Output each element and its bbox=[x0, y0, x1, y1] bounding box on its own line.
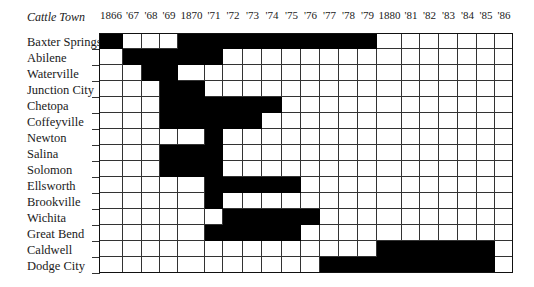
town-label: Waterville bbox=[27, 66, 79, 82]
inactive-year-cell bbox=[339, 113, 358, 129]
inactive-year-cell bbox=[420, 65, 439, 81]
inactive-year-cell bbox=[458, 177, 477, 193]
active-year-cell bbox=[243, 225, 262, 241]
inactive-year-cell bbox=[495, 177, 513, 193]
inactive-year-cell bbox=[160, 177, 178, 193]
inactive-year-cell bbox=[142, 129, 160, 145]
town-label: Coffeyville bbox=[27, 114, 84, 130]
inactive-year-cell bbox=[495, 97, 513, 113]
inactive-year-cell bbox=[262, 257, 282, 273]
inactive-year-cell bbox=[402, 97, 420, 113]
inactive-year-cell bbox=[123, 161, 142, 177]
active-year-cell bbox=[160, 97, 178, 113]
inactive-year-cell bbox=[439, 65, 458, 81]
inactive-year-cell bbox=[439, 145, 458, 161]
active-year-cell bbox=[160, 145, 178, 161]
inactive-year-cell bbox=[282, 129, 301, 145]
inactive-year-cell bbox=[178, 193, 205, 209]
inactive-year-cell bbox=[205, 241, 223, 257]
inactive-year-cell bbox=[377, 81, 402, 97]
inactive-year-cell bbox=[377, 225, 402, 241]
inactive-year-cell bbox=[495, 49, 513, 65]
inactive-year-cell bbox=[339, 129, 358, 145]
inactive-year-cell bbox=[495, 113, 513, 129]
inactive-year-cell bbox=[458, 193, 477, 209]
inactive-year-cell bbox=[205, 257, 223, 273]
active-year-cell bbox=[320, 257, 339, 273]
inactive-year-cell bbox=[420, 225, 439, 241]
inactive-year-cell bbox=[477, 33, 495, 49]
inactive-year-cell bbox=[339, 177, 358, 193]
inactive-year-cell bbox=[495, 257, 513, 273]
inactive-year-cell bbox=[99, 257, 123, 273]
inactive-year-cell bbox=[282, 161, 301, 177]
inactive-year-cell bbox=[439, 177, 458, 193]
active-year-cell bbox=[205, 225, 223, 241]
active-year-cell bbox=[178, 161, 205, 177]
active-year-cell bbox=[420, 257, 439, 273]
inactive-year-cell bbox=[282, 257, 301, 273]
active-year-cell bbox=[160, 65, 178, 81]
inactive-year-cell bbox=[477, 49, 495, 65]
inactive-year-cell bbox=[458, 225, 477, 241]
inactive-year-cell bbox=[223, 193, 243, 209]
inactive-year-cell bbox=[262, 193, 282, 209]
active-year-cell bbox=[439, 257, 458, 273]
active-year-cell bbox=[339, 33, 358, 49]
inactive-year-cell bbox=[439, 113, 458, 129]
inactive-year-cell bbox=[99, 113, 123, 129]
inactive-year-cell bbox=[243, 81, 262, 97]
inactive-year-cell bbox=[243, 241, 262, 257]
inactive-year-cell bbox=[420, 161, 439, 177]
active-year-cell bbox=[301, 209, 320, 225]
inactive-year-cell bbox=[123, 241, 142, 257]
inactive-year-cell bbox=[477, 145, 495, 161]
active-year-cell bbox=[262, 225, 282, 241]
inactive-year-cell bbox=[339, 145, 358, 161]
inactive-year-cell bbox=[402, 161, 420, 177]
inactive-year-cell bbox=[358, 225, 377, 241]
inactive-year-cell bbox=[282, 49, 301, 65]
active-year-cell bbox=[282, 33, 301, 49]
town-label: Dodge City bbox=[27, 258, 85, 274]
inactive-year-cell bbox=[99, 145, 123, 161]
inactive-year-cell bbox=[358, 65, 377, 81]
inactive-year-cell bbox=[477, 97, 495, 113]
active-year-cell bbox=[205, 33, 223, 49]
inactive-year-cell bbox=[402, 209, 420, 225]
town-label: Brookville bbox=[27, 194, 80, 210]
inactive-year-cell bbox=[142, 177, 160, 193]
active-year-cell bbox=[282, 225, 301, 241]
town-label: Chetopa bbox=[27, 98, 69, 114]
inactive-year-cell bbox=[178, 65, 205, 81]
inactive-year-cell bbox=[495, 193, 513, 209]
inactive-year-cell bbox=[377, 49, 402, 65]
inactive-year-cell bbox=[420, 129, 439, 145]
inactive-year-cell bbox=[495, 81, 513, 97]
inactive-year-cell bbox=[402, 33, 420, 49]
active-year-cell bbox=[160, 81, 178, 97]
inactive-year-cell bbox=[339, 241, 358, 257]
inactive-year-cell bbox=[339, 209, 358, 225]
active-year-cell bbox=[477, 257, 495, 273]
inactive-year-cell bbox=[262, 241, 282, 257]
inactive-year-cell bbox=[301, 81, 320, 97]
inactive-year-cell bbox=[223, 129, 243, 145]
inactive-year-cell bbox=[223, 49, 243, 65]
town-label: Great Bend bbox=[27, 226, 84, 242]
inactive-year-cell bbox=[458, 113, 477, 129]
inactive-year-cell bbox=[420, 81, 439, 97]
inactive-year-cell bbox=[99, 81, 123, 97]
active-year-cell bbox=[178, 97, 205, 113]
inactive-year-cell bbox=[495, 129, 513, 145]
inactive-year-cell bbox=[495, 65, 513, 81]
inactive-year-cell bbox=[142, 193, 160, 209]
inactive-year-cell bbox=[477, 209, 495, 225]
town-label: Caldwell bbox=[27, 242, 72, 258]
active-year-cell bbox=[282, 177, 301, 193]
active-year-cell bbox=[142, 65, 160, 81]
active-year-cell bbox=[205, 49, 223, 65]
inactive-year-cell bbox=[142, 209, 160, 225]
inactive-year-cell bbox=[377, 161, 402, 177]
inactive-year-cell bbox=[358, 209, 377, 225]
